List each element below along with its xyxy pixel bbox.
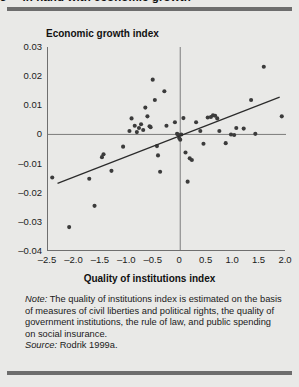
data-point: [135, 130, 139, 134]
bottom-divider-rule: [7, 371, 292, 375]
data-point: [127, 129, 131, 133]
y-tick-label: 0.01: [2, 100, 42, 110]
source-text: Rodrik 1999a.: [57, 340, 117, 350]
data-point: [156, 153, 160, 157]
data-point: [217, 129, 221, 133]
data-point: [145, 114, 149, 118]
data-point: [158, 170, 162, 174]
data-point: [194, 120, 198, 124]
data-point: [232, 133, 236, 137]
y-axis-title: Economic growth index: [46, 28, 159, 39]
data-point: [173, 120, 177, 124]
data-point: [186, 180, 190, 184]
x-axis-title: Quality of institutions index: [0, 273, 299, 284]
data-point: [130, 116, 134, 120]
data-point: [139, 122, 143, 126]
data-point: [262, 65, 266, 69]
data-point: [215, 116, 219, 120]
source-paragraph: Source: Rodrik 1999a.: [25, 340, 283, 352]
data-point: [121, 145, 125, 149]
data-point: [183, 150, 187, 154]
y-tick-label: –0.03: [2, 217, 42, 227]
data-point: [141, 128, 145, 132]
plot-frame: [47, 47, 285, 251]
data-point: [87, 177, 91, 181]
y-tick-label: –0.02: [2, 188, 42, 198]
data-point: [67, 225, 71, 229]
data-point: [92, 204, 96, 208]
data-point: [224, 141, 228, 145]
source-label: Source:: [25, 340, 57, 350]
data-point: [164, 124, 168, 128]
data-point: [101, 152, 105, 156]
y-tick-label: –0.01: [2, 159, 42, 169]
data-point: [153, 98, 157, 102]
data-point: [137, 126, 141, 130]
x-tick-label: 2.0: [268, 255, 299, 265]
data-point: [190, 158, 194, 162]
data-point: [201, 142, 205, 146]
figure-title: 3in hand with economic growth: [0, 0, 299, 5]
note-label: Note:: [25, 294, 47, 304]
note-text: The quality of institutions index is est…: [25, 294, 282, 339]
data-point: [149, 125, 153, 129]
data-point: [249, 98, 253, 102]
data-point: [178, 138, 182, 142]
note-paragraph: Note: The quality of institutions index …: [25, 294, 283, 340]
data-point: [162, 89, 166, 93]
data-point: [242, 127, 246, 131]
data-point: [253, 132, 257, 136]
y-tick-label: 0: [2, 129, 42, 139]
data-point: [151, 78, 155, 82]
trend-line: [58, 97, 280, 183]
scatter-plot-canvas: [48, 47, 286, 251]
data-point: [50, 176, 54, 180]
data-point: [280, 114, 284, 118]
data-point: [109, 169, 113, 173]
figure-notes: Note: The quality of institutions index …: [25, 294, 283, 352]
data-point: [181, 116, 185, 120]
data-point: [198, 129, 202, 133]
figure-title-text: in hand with economic growth: [23, 0, 191, 3]
y-tick-label: 0.03: [2, 42, 42, 52]
data-point: [133, 124, 137, 128]
y-tick-label: 0.02: [2, 71, 42, 81]
data-point: [143, 106, 147, 110]
top-divider-rule: [7, 7, 292, 11]
figure-number: 3: [0, 0, 7, 3]
data-point: [234, 126, 238, 130]
